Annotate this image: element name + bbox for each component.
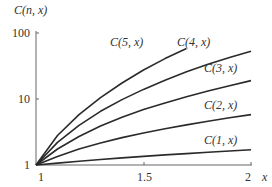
label-c1: C(1, x): [204, 134, 237, 146]
xtick-1-5: 1.5: [137, 171, 152, 183]
ytick-100: 100: [12, 27, 30, 39]
xtick-2: 2: [245, 171, 251, 183]
label-c2: C(2, x): [204, 99, 237, 111]
label-c3: C(3, x): [204, 62, 237, 74]
label-c4: C(4, x): [177, 36, 210, 48]
chart: [0, 0, 272, 187]
ytick-1: 1: [24, 159, 30, 171]
label-c5: C(5, x): [110, 36, 143, 48]
x-axis-label: x: [262, 171, 267, 183]
xtick-1: 1: [38, 171, 44, 183]
ytick-10: 10: [18, 93, 30, 105]
y-axis-label: C(n, x): [14, 4, 47, 16]
